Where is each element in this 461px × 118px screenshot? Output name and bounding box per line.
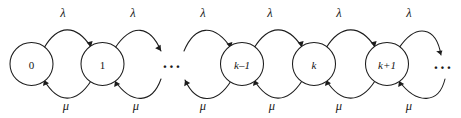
forward-arc bbox=[326, 30, 375, 48]
forward-edge-k-to-k-plus-1 bbox=[326, 30, 377, 48]
chain-canvas: 0 1 k–1 k k+1 ··· ··· bbox=[0, 0, 461, 118]
state-transition-diagram: 0 1 k–1 k k+1 ··· ··· bbox=[0, 0, 461, 118]
rate-label-lambda: λ bbox=[405, 6, 412, 20]
rate-label-mu: μ bbox=[199, 99, 206, 113]
state-node-k-plus-1[interactable]: k+1 bbox=[366, 43, 409, 86]
backward-arc bbox=[115, 79, 161, 98]
ellipsis-left: ··· bbox=[162, 58, 182, 75]
rate-label-mu: μ bbox=[62, 99, 69, 113]
forward-edge-k-1-to-k bbox=[254, 30, 304, 48]
state-node-0[interactable]: 0 bbox=[10, 43, 53, 86]
state-label: k–1 bbox=[234, 59, 250, 71]
ellipsis-right: ··· bbox=[433, 59, 453, 76]
backward-edge-k-1-to-gap bbox=[184, 80, 231, 99]
forward-arrowhead bbox=[436, 51, 442, 55]
rate-label-lambda: λ bbox=[59, 6, 66, 20]
rate-label-lambda: λ bbox=[129, 6, 136, 20]
rate-label-lambda: λ bbox=[199, 6, 206, 20]
state-nodes: 0 1 k–1 k k+1 bbox=[10, 43, 409, 86]
rate-label-mu: μ bbox=[335, 99, 342, 113]
backward-rate-labels: μ μ μ μ μ μ bbox=[62, 99, 412, 113]
forward-edge-1-to-gap bbox=[115, 30, 161, 51]
backward-edge-1-to-0 bbox=[43, 80, 91, 98]
forward-rate-labels: λ λ λ λ λ λ bbox=[59, 6, 412, 20]
backward-arc bbox=[326, 80, 375, 98]
rate-label-mu: μ bbox=[268, 99, 275, 113]
backward-arc bbox=[185, 80, 231, 99]
state-node-k[interactable]: k bbox=[293, 43, 336, 86]
backward-edge-k-plus-1-to-k bbox=[325, 80, 375, 98]
rate-label-lambda: λ bbox=[266, 6, 273, 20]
forward-edge-k-plus-1-to-gap bbox=[399, 31, 442, 55]
forward-arc bbox=[115, 30, 161, 51]
state-node-1[interactable]: 1 bbox=[81, 43, 124, 86]
backward-arc bbox=[44, 80, 91, 98]
forward-arc bbox=[399, 31, 441, 55]
state-label: 0 bbox=[29, 59, 35, 71]
forward-edge-0-to-1 bbox=[44, 30, 93, 48]
state-label: 1 bbox=[100, 59, 106, 71]
forward-arc bbox=[44, 30, 91, 48]
backward-arc bbox=[399, 79, 445, 98]
backward-edge-gap-to-1 bbox=[114, 79, 161, 98]
forward-edge-gap-to-k-1 bbox=[184, 30, 232, 51]
state-label: k+1 bbox=[378, 59, 396, 71]
rate-label-mu: μ bbox=[405, 99, 412, 113]
state-node-k-minus-1[interactable]: k–1 bbox=[221, 43, 264, 86]
forward-arc bbox=[184, 30, 231, 51]
backward-arc bbox=[254, 80, 302, 98]
backward-edge-gap-to-k-plus-1 bbox=[398, 79, 445, 98]
forward-arc bbox=[254, 30, 302, 48]
rate-label-lambda: λ bbox=[335, 6, 342, 20]
rate-label-mu: μ bbox=[132, 99, 139, 113]
backward-edge-k-to-k-1 bbox=[253, 80, 302, 98]
